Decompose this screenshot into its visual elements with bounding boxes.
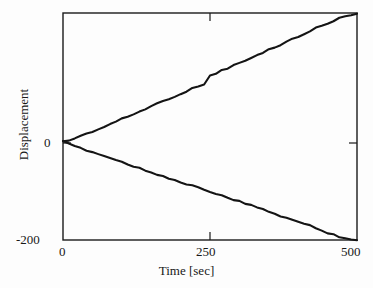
chart-plot-area xyxy=(0,0,373,288)
xtick-label-250: 250 xyxy=(196,245,216,258)
ytick-label-min200: -200 xyxy=(16,233,40,246)
chart-figure: 0 -200 0 250 500 Time [sec] Displacement xyxy=(0,0,373,288)
xtick-label-500: 500 xyxy=(341,245,361,258)
y-axis-title: Displacement xyxy=(17,60,30,190)
xtick-label-0: 0 xyxy=(59,245,66,258)
figure-background xyxy=(0,0,373,288)
ytick-label-0: 0 xyxy=(44,136,51,149)
x-axis-title: Time [sec] xyxy=(0,264,373,277)
